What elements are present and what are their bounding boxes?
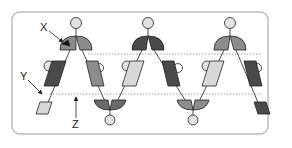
label-y: Y [20, 70, 28, 82]
label-x: X [40, 21, 48, 33]
bottom-bead-1 [105, 115, 115, 125]
diagram-canvas: X Y Z [0, 0, 292, 148]
top-bead-1 [71, 18, 82, 29]
label-z: Z [72, 118, 79, 130]
top-bead-3 [225, 18, 236, 29]
bottom-bead-2 [188, 115, 198, 125]
helix-topology-diagram: X Y Z [0, 0, 292, 148]
top-bead-2 [143, 18, 154, 29]
